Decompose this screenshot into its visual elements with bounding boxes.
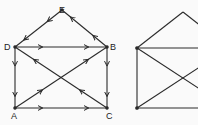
label-e: E	[59, 5, 65, 15]
label-c: C	[106, 111, 113, 121]
arrow-icon	[86, 60, 87, 61]
label-d: D	[4, 42, 11, 52]
edge-TL-BR	[137, 48, 198, 108]
edge-TL-apex	[137, 12, 183, 48]
edge-apex-TR	[183, 12, 198, 48]
node-D	[14, 46, 16, 48]
node-BL	[136, 107, 139, 110]
arrow-icon	[40, 91, 41, 92]
node-B	[106, 46, 108, 48]
arrow-icon	[81, 91, 82, 92]
label-a: A	[11, 111, 17, 121]
edge-B-E	[62, 10, 107, 47]
node-A	[14, 107, 16, 109]
edge-E-D	[15, 10, 62, 47]
undirected-house-graph	[136, 12, 198, 109]
node-TL	[136, 47, 139, 50]
directed-house-graph	[14, 9, 108, 109]
node-C	[106, 107, 108, 109]
diagram-canvas: E D B A C	[0, 0, 198, 125]
arrow-icon	[35, 60, 36, 61]
label-b: B	[110, 42, 116, 52]
edge-BL-TR	[137, 48, 198, 108]
